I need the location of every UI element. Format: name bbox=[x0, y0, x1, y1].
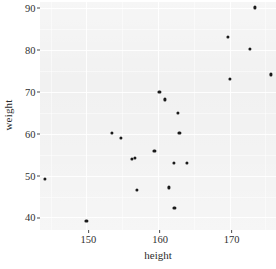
data-point bbox=[135, 189, 138, 192]
data-point bbox=[228, 77, 231, 80]
gridline-vertical-minor bbox=[51, 2, 52, 230]
y-tick-label-text: 80 bbox=[25, 45, 36, 56]
data-point bbox=[185, 161, 188, 164]
background-watermark bbox=[44, 135, 272, 148]
data-point bbox=[167, 186, 170, 189]
x-tick-label-text: 150 bbox=[81, 234, 97, 245]
data-point bbox=[153, 149, 156, 152]
data-point bbox=[173, 207, 176, 210]
y-tick-label: 90 bbox=[25, 3, 40, 14]
data-point bbox=[130, 157, 133, 160]
plot-panel bbox=[40, 2, 276, 230]
y-tick-label: 40 bbox=[25, 212, 40, 223]
x-tick-label: 150 bbox=[81, 230, 97, 245]
x-axis-title: height bbox=[40, 249, 276, 261]
data-point bbox=[176, 111, 179, 114]
gridline-vertical bbox=[86, 2, 87, 230]
y-tick-label: 80 bbox=[25, 45, 40, 56]
data-point bbox=[172, 161, 175, 164]
data-point bbox=[43, 177, 46, 180]
gridline-vertical bbox=[158, 2, 159, 230]
x-tick-label-text: 170 bbox=[224, 234, 240, 245]
x-tick-label-text: 160 bbox=[152, 234, 168, 245]
x-tick-mark bbox=[160, 230, 161, 233]
data-point bbox=[134, 156, 137, 159]
gridline-vertical-minor bbox=[122, 2, 123, 230]
y-tick-label: 70 bbox=[25, 86, 40, 97]
x-tick-label: 170 bbox=[224, 230, 240, 245]
y-tick-label-text: 60 bbox=[25, 128, 36, 139]
x-tick-label: 160 bbox=[152, 230, 168, 245]
y-tick-label: 50 bbox=[25, 170, 40, 181]
y-tick-label-text: 40 bbox=[25, 212, 36, 223]
x-axis-ticks: 150160170 bbox=[40, 230, 276, 246]
gridline-vertical bbox=[230, 2, 231, 230]
caption-fragment bbox=[0, 263, 276, 269]
data-point bbox=[158, 90, 161, 93]
y-tick-label: 60 bbox=[25, 128, 40, 139]
y-tick-label-text: 50 bbox=[25, 170, 36, 181]
gridline-vertical-minor bbox=[265, 2, 266, 230]
y-tick-label-text: 90 bbox=[25, 3, 36, 14]
y-axis-ticks: 405060708090 bbox=[14, 0, 40, 230]
data-point bbox=[269, 73, 272, 76]
x-tick-mark bbox=[88, 230, 89, 233]
data-point bbox=[85, 219, 88, 222]
y-tick-label-text: 70 bbox=[25, 86, 36, 97]
y-axis-title-text: weight bbox=[2, 99, 14, 130]
x-tick-mark bbox=[231, 230, 232, 233]
gridline-vertical-minor bbox=[194, 2, 195, 230]
data-point bbox=[164, 98, 167, 101]
scatter-plot-figure: weight 405060708090 150160170 height bbox=[0, 0, 276, 269]
